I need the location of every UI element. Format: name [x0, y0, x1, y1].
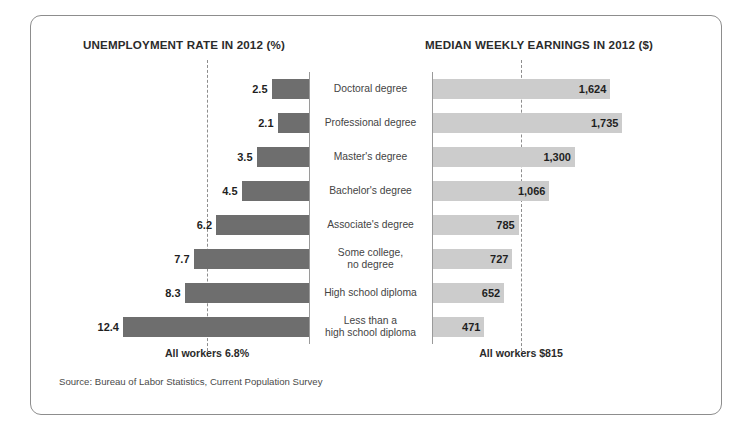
chart-panel: UNEMPLOYMENT RATE IN 2012 (%) MEDIAN WEE… [30, 15, 722, 415]
earnings-value-label: 1,066 [507, 181, 545, 201]
chart-row: 12.4Less than ahigh school diploma471 [31, 310, 723, 344]
earnings-value-label: 727 [470, 249, 508, 269]
plot-area: 2.5Doctoral degree1,6242.1Professional d… [31, 16, 723, 416]
chart-row: 6.2Associate's degree785 [31, 208, 723, 242]
unemployment-value-label: 2.5 [226, 79, 268, 99]
right-average-label: All workers $815 [479, 347, 563, 359]
earnings-value-label: 1,300 [533, 147, 571, 167]
category-label: Less than ahigh school diploma [314, 310, 427, 344]
unemployment-bar [216, 215, 309, 235]
unemployment-bar [185, 283, 310, 303]
category-label: Professional degree [314, 106, 427, 140]
unemployment-bar [123, 317, 309, 337]
earnings-value-label: 652 [462, 283, 500, 303]
category-label: Doctoral degree [314, 72, 427, 106]
unemployment-bar [272, 79, 310, 99]
chart-row: 3.5Master's degree1,300 [31, 140, 723, 174]
unemployment-bar [278, 113, 310, 133]
chart-row: 2.1Professional degree1,735 [31, 106, 723, 140]
unemployment-bar [194, 249, 310, 269]
category-label: High school diploma [314, 276, 427, 310]
unemployment-bar [257, 147, 310, 167]
earnings-value-label: 471 [442, 317, 480, 337]
unemployment-value-label: 2.1 [232, 113, 274, 133]
unemployment-value-label: 6.2 [170, 215, 212, 235]
source-note: Source: Bureau of Labor Statistics, Curr… [59, 376, 322, 387]
unemployment-value-label: 7.7 [148, 249, 190, 269]
left-average-label: All workers 6.8% [165, 347, 249, 359]
chart-row: 2.5Doctoral degree1,624 [31, 72, 723, 106]
earnings-value-label: 785 [477, 215, 515, 235]
unemployment-bar [242, 181, 310, 201]
chart-row: 4.5Bachelor's degree1,066 [31, 174, 723, 208]
unemployment-value-label: 12.4 [77, 317, 119, 337]
category-label: Associate's degree [314, 208, 427, 242]
category-label: Some college,no degree [314, 242, 427, 276]
category-label: Master's degree [314, 140, 427, 174]
unemployment-value-label: 8.3 [139, 283, 181, 303]
category-label: Bachelor's degree [314, 174, 427, 208]
chart-row: 7.7Some college,no degree727 [31, 242, 723, 276]
earnings-value-label: 1,735 [580, 113, 618, 133]
unemployment-value-label: 3.5 [211, 147, 253, 167]
unemployment-value-label: 4.5 [196, 181, 238, 201]
earnings-value-label: 1,624 [568, 79, 606, 99]
chart-row: 8.3High school diploma652 [31, 276, 723, 310]
